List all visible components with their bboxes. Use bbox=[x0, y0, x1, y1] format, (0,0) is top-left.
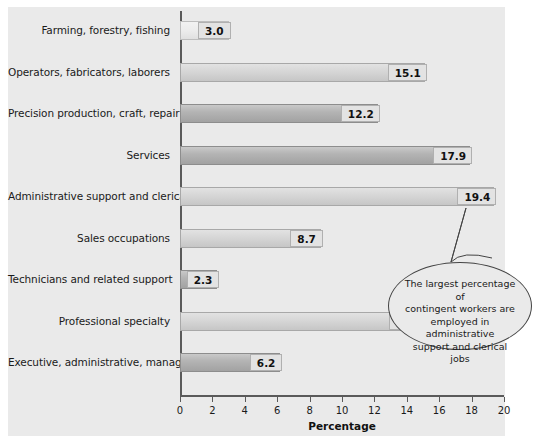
bar-value-label: 6.2 bbox=[250, 354, 283, 371]
bar-value-label: 12.2 bbox=[341, 105, 380, 122]
x-tick-label: 18 bbox=[465, 405, 478, 416]
x-axis-title: Percentage bbox=[180, 420, 504, 432]
x-tick-mark bbox=[310, 397, 311, 402]
bar-chart-figure: Farming, forestry, fishingOperators, fab… bbox=[0, 0, 542, 444]
callout-tail-icon bbox=[448, 206, 508, 268]
category-label: Precision production, craft, repair bbox=[8, 108, 170, 119]
bar-value-label: 8.7 bbox=[290, 230, 323, 247]
category-axis-labels: Farming, forestry, fishingOperators, fab… bbox=[8, 7, 176, 387]
bar bbox=[180, 146, 470, 165]
x-tick-label: 4 bbox=[242, 405, 248, 416]
x-tick-label: 8 bbox=[306, 405, 312, 416]
x-tick-label: 0 bbox=[177, 405, 183, 416]
x-tick-label: 16 bbox=[433, 405, 446, 416]
bar-value-label: 2.3 bbox=[187, 271, 220, 288]
callout-text-line: contingent workers are bbox=[402, 303, 518, 316]
callout-text-line: The largest percentage of bbox=[402, 278, 518, 303]
category-label: Farming, forestry, fishing bbox=[8, 25, 170, 36]
category-label: Executive, administrative, managerial bbox=[8, 357, 170, 368]
category-label: Administrative support and clerical bbox=[8, 191, 170, 202]
bar bbox=[180, 187, 494, 206]
callout-text-line: support and clerical jobs bbox=[402, 341, 518, 366]
bar-value-label: 3.0 bbox=[198, 22, 231, 39]
category-label: Technicians and related support bbox=[8, 274, 170, 285]
bar-value-label: 19.4 bbox=[457, 188, 496, 205]
x-tick-label: 6 bbox=[274, 405, 280, 416]
x-tick-label: 14 bbox=[400, 405, 413, 416]
x-tick-mark bbox=[374, 397, 375, 402]
category-label: Services bbox=[8, 150, 170, 161]
x-tick-mark bbox=[342, 397, 343, 402]
x-tick-label: 10 bbox=[336, 405, 349, 416]
x-tick-mark bbox=[407, 397, 408, 402]
x-tick-label: 2 bbox=[209, 405, 215, 416]
x-tick-mark bbox=[439, 397, 440, 402]
x-tick-mark bbox=[245, 397, 246, 402]
callout-text-line: employed in administrative bbox=[402, 316, 518, 341]
x-tick-mark bbox=[504, 397, 505, 402]
category-label: Professional specialty bbox=[8, 316, 170, 327]
callout-text: The largest percentage ofcontingent work… bbox=[402, 278, 518, 366]
x-tick-mark bbox=[212, 397, 213, 402]
bar-value-label: 15.1 bbox=[388, 64, 427, 81]
x-tick-label: 20 bbox=[498, 405, 511, 416]
annotation-callout: The largest percentage ofcontingent work… bbox=[388, 262, 532, 350]
x-tick-mark bbox=[277, 397, 278, 402]
x-tick-mark bbox=[472, 397, 473, 402]
x-tick-mark bbox=[180, 397, 181, 402]
x-tick-label: 12 bbox=[368, 405, 381, 416]
category-label: Operators, fabricators, laborers bbox=[8, 67, 170, 78]
category-label: Sales occupations bbox=[8, 233, 170, 244]
bar-value-label: 17.9 bbox=[433, 147, 472, 164]
